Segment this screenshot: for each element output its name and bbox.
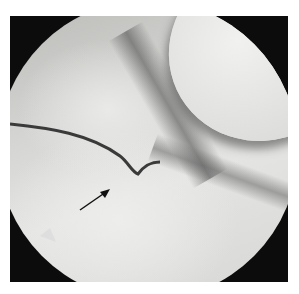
tear-line: [10, 124, 160, 174]
arthroscopy-image-frame: [10, 16, 288, 282]
arrow-icon: [80, 189, 110, 210]
tissue-spur: [40, 228, 56, 242]
annotation-overlay: [10, 16, 288, 282]
